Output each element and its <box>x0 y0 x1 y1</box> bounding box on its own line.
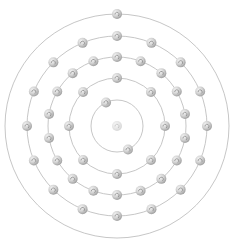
electron <box>180 109 190 119</box>
electron <box>146 38 156 48</box>
electron <box>146 155 156 165</box>
electron <box>146 204 156 214</box>
electron <box>160 121 170 131</box>
electron <box>112 211 122 221</box>
electron <box>29 87 39 97</box>
electron <box>112 52 122 62</box>
electron <box>88 56 98 66</box>
nucleus <box>112 121 122 131</box>
electron <box>156 174 166 184</box>
electron <box>78 155 88 165</box>
electron <box>44 133 54 143</box>
electron <box>112 31 122 41</box>
electron <box>101 97 111 107</box>
electron <box>156 68 166 78</box>
electron <box>176 57 186 67</box>
electrons <box>22 9 212 221</box>
electron <box>78 204 88 214</box>
electron <box>112 190 122 200</box>
nucleus-icon <box>112 121 122 131</box>
electron <box>136 186 146 196</box>
electron <box>78 87 88 97</box>
electron <box>52 87 62 97</box>
electron <box>29 155 39 165</box>
electron <box>172 156 182 166</box>
electron <box>136 56 146 66</box>
electron <box>112 73 122 83</box>
electron <box>78 38 88 48</box>
electron <box>180 133 190 143</box>
electron <box>68 68 78 78</box>
electron <box>112 169 122 179</box>
electron <box>48 185 58 195</box>
electron <box>88 186 98 196</box>
electron <box>195 155 205 165</box>
electron <box>172 87 182 97</box>
electron <box>202 121 212 131</box>
electron <box>176 185 186 195</box>
electron <box>123 145 133 155</box>
electron <box>44 109 54 119</box>
electron <box>112 9 122 19</box>
electron <box>22 121 32 131</box>
electron <box>146 87 156 97</box>
bohr-atom-diagram <box>0 0 235 246</box>
electron <box>68 174 78 184</box>
electron <box>195 87 205 97</box>
electron <box>52 156 62 166</box>
electron <box>64 121 74 131</box>
electron <box>48 57 58 67</box>
